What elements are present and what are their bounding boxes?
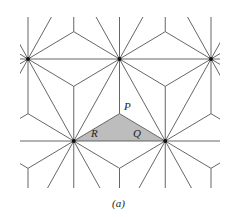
shaded-triangle-pqr (74, 114, 166, 141)
tiling-lines (0, 0, 234, 217)
lattice-node (163, 139, 167, 143)
lattice-node (209, 57, 213, 61)
lattice-node (118, 57, 122, 61)
tiling-figure: P R Q (a) (0, 0, 234, 217)
label-p: P (124, 101, 131, 112)
triangular-tiling-diagram (0, 0, 234, 217)
label-q: Q (133, 128, 141, 139)
lattice-node (26, 57, 30, 61)
lattice-node (72, 139, 76, 143)
figure-caption: (a) (112, 198, 125, 209)
label-r: R (91, 128, 98, 139)
